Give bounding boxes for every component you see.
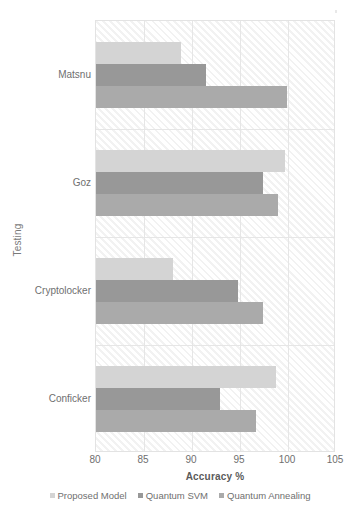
legend-item: Quantum Annealing <box>219 490 310 501</box>
bar <box>96 258 173 280</box>
x-axis-tick-label: 85 <box>137 454 148 465</box>
bar <box>96 388 220 410</box>
bar-chart-figure: Testing MatsnuGozCryptolockerConficker 8… <box>0 0 360 523</box>
y-axis-tick-label: Conficker <box>5 393 91 404</box>
bar <box>96 194 278 216</box>
legend-label: Proposed Model <box>58 490 127 501</box>
bar <box>96 302 263 324</box>
bar <box>96 280 238 302</box>
x-axis-tick-label: 100 <box>279 454 296 465</box>
y-axis-tick-labels: MatsnuGozCryptolockerConficker <box>0 0 91 523</box>
legend-swatch-icon <box>50 493 55 498</box>
y-axis-tick-label: Matsnu <box>5 69 91 80</box>
legend-item: Proposed Model <box>50 490 127 501</box>
x-axis-tick-label: 80 <box>89 454 100 465</box>
y-axis-tick-label: Cryptolocker <box>5 285 91 296</box>
legend-label: Quantum SVM <box>146 490 208 501</box>
scan-artifact <box>335 10 337 13</box>
chart-legend: Proposed ModelQuantum SVMQuantum Anneali… <box>0 490 360 501</box>
y-axis-tick-label: Goz <box>5 177 91 188</box>
gridline-horizontal <box>96 345 334 346</box>
legend-swatch-icon <box>219 493 224 498</box>
x-axis-tick-label: 90 <box>185 454 196 465</box>
legend-item: Quantum SVM <box>138 490 208 501</box>
x-axis-title: Accuracy % <box>95 471 335 482</box>
gridline-vertical <box>288 21 289 451</box>
bar <box>96 42 181 64</box>
gridline-horizontal <box>96 129 334 130</box>
gridline-horizontal <box>96 237 334 238</box>
legend-swatch-icon <box>138 493 143 498</box>
bar <box>96 172 263 194</box>
bar <box>96 86 287 108</box>
x-axis-tick-label: 95 <box>233 454 244 465</box>
x-axis-tick-label: 105 <box>327 454 344 465</box>
bar <box>96 410 256 432</box>
x-axis-tick-labels: 80859095100105 <box>0 454 360 470</box>
plot-area <box>95 20 335 452</box>
bar <box>96 366 276 388</box>
bar <box>96 64 206 86</box>
legend-label: Quantum Annealing <box>227 490 310 501</box>
bar <box>96 150 285 172</box>
